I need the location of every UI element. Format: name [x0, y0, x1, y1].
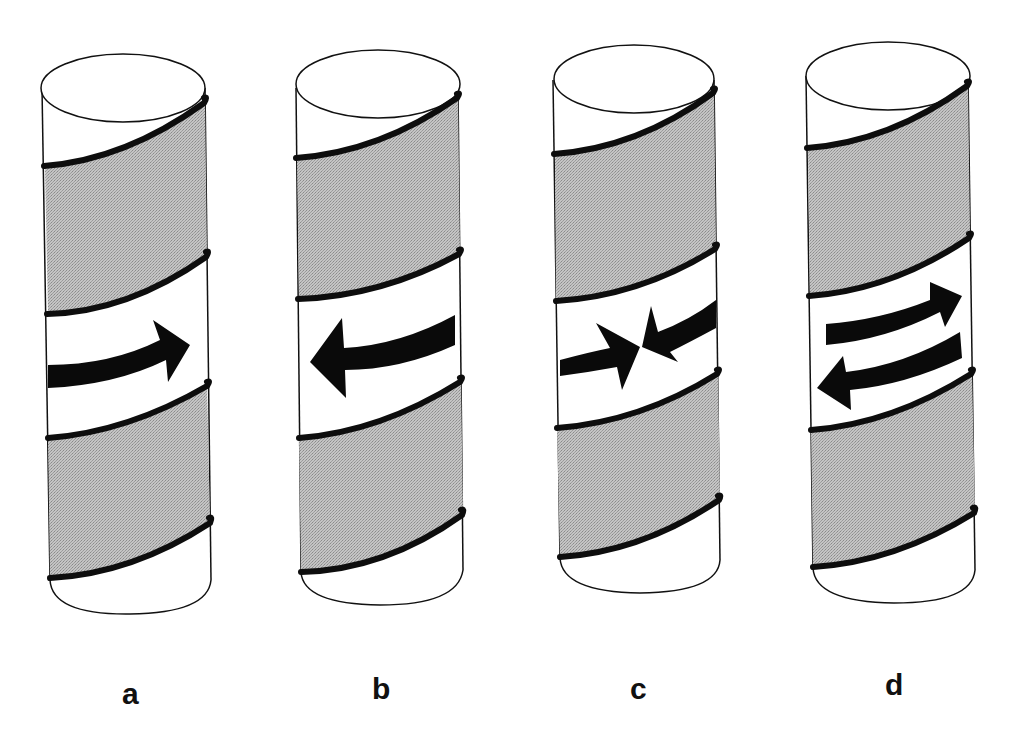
cylinder-c-bottom-cap [560, 558, 720, 593]
cylinder-a-shaded-band-lower [48, 384, 210, 578]
cylinder-a-shaded-band-upper [45, 100, 207, 314]
panel-label-b: b [372, 672, 390, 706]
cylinder-a-top-cap [41, 54, 205, 122]
cylinder-c [553, 45, 720, 593]
cylinder-b-top-cap [296, 50, 460, 118]
cylinder-a-bottom-cap [50, 580, 211, 614]
panel-label-c: c [630, 672, 647, 706]
cylinder-d [806, 42, 975, 603]
cylinder-d-shaded-band-upper [808, 84, 970, 296]
cylinder-b-bottom-cap [301, 570, 463, 605]
arrow-right-icon [48, 320, 190, 388]
diagram-canvas [0, 0, 1010, 743]
cylinder-b-shaded-band-lower [299, 380, 463, 572]
cylinder-c-top-cap [554, 45, 714, 113]
cylinder-b [296, 50, 463, 605]
cylinder-a [41, 54, 211, 614]
arrow-left-icon [310, 315, 455, 398]
converging-arrows-icon [560, 300, 716, 390]
cylinder-d-bottom-cap [813, 568, 975, 603]
panel-label-a: a [122, 677, 139, 711]
panel-label-d: d [885, 668, 903, 702]
cylinder-d-shaded-band-lower [811, 372, 975, 567]
cylinder-c-shaded-band-lower [557, 372, 720, 557]
cylinder-c-shaded-band-upper [555, 91, 716, 301]
cylinder-diagram-figure: a b c d [0, 0, 1010, 743]
cylinder-a-left-edge [42, 88, 50, 580]
